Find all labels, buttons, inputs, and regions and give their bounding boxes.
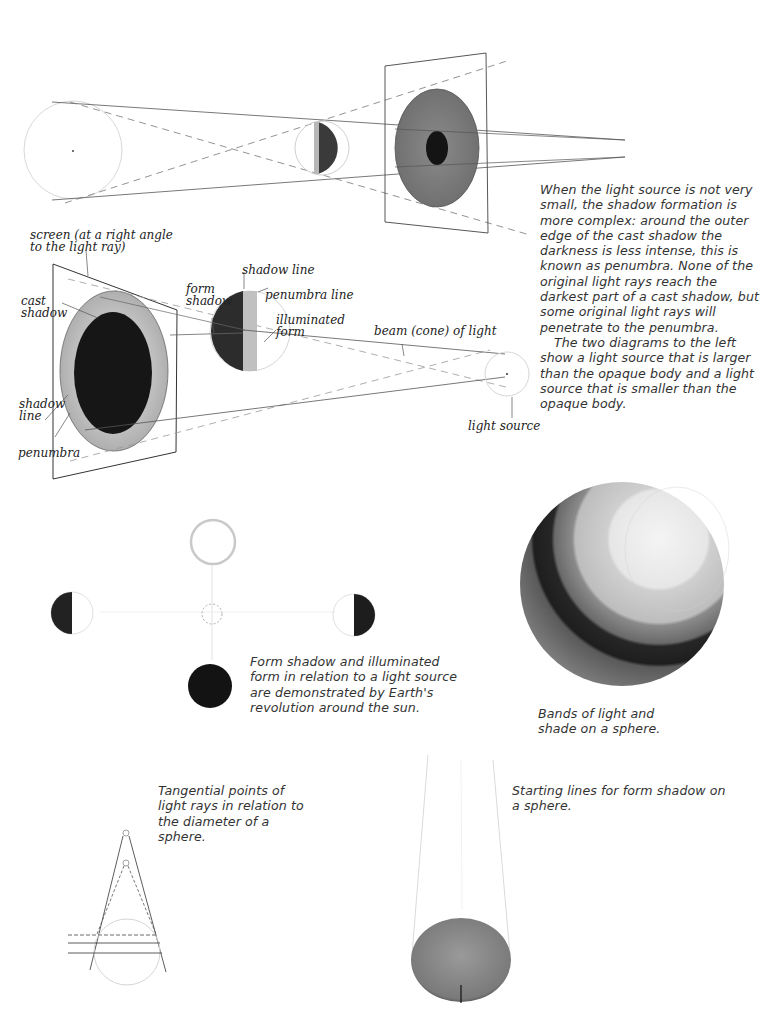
label-penumbra: penumbra [18, 447, 80, 459]
caption-earth-revolution: Form shadow and illuminated form in rela… [250, 654, 470, 715]
explanation-paragraph: When the light source is not very small,… [540, 182, 760, 411]
earth-dark [188, 664, 232, 708]
label-form-shadow-2: shadow [186, 295, 232, 307]
label-beam: beam (cone) of light [374, 325, 496, 337]
label-shadow-line-left-2: line [19, 410, 42, 422]
label-light-source: light source [468, 420, 540, 432]
caption-banded-sphere: Bands of light and shade on a sphere. [538, 706, 688, 737]
figure-starting-lines [411, 755, 511, 1003]
paragraph-2: The two diagrams to the left show a ligh… [540, 335, 760, 411]
caption-tangential-points: Tangential points of light rays in relat… [158, 783, 308, 844]
figure-small-light-source [45, 250, 529, 479]
label-cast-shadow-2: shadow [21, 307, 67, 319]
cast-shadow-umbra [426, 131, 448, 165]
figure-large-light-source [24, 53, 625, 235]
label-shadow-line: shadow line [242, 264, 315, 276]
caption-starting-lines: Starting lines for form shadow on a sphe… [512, 783, 732, 814]
label-illuminated-2: form [276, 326, 305, 338]
sun [191, 520, 235, 564]
label-penumbra-line: penumbra line [265, 289, 354, 301]
shaded-sphere [520, 482, 724, 686]
label-screen-2: to the light ray) [30, 241, 125, 253]
umbra-ellipse [74, 312, 152, 434]
paragraph-1: When the light source is not very small,… [540, 182, 760, 335]
illustration-canvas [0, 0, 761, 1023]
figure-tangential-points [68, 830, 166, 985]
figure-banded-sphere [520, 482, 729, 686]
